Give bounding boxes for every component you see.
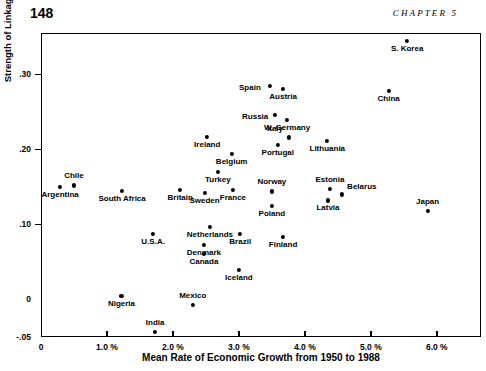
data-point (119, 294, 123, 298)
x-axis-tick-mark (106, 331, 107, 337)
y-axis-tick-mark (35, 149, 41, 150)
x-axis-tick-mark (172, 331, 173, 337)
data-point (340, 192, 344, 196)
data-point (230, 152, 234, 156)
data-point-label: South Africa (98, 195, 145, 203)
data-point-label: Iceland (225, 274, 253, 282)
x-axis-tick-mark (304, 331, 305, 337)
data-point-label: Netherlands (187, 231, 233, 239)
data-point (387, 89, 391, 93)
data-point-label: Canada (189, 258, 218, 266)
data-point-label: Spain (239, 84, 261, 92)
data-point-label: Brazil (229, 238, 251, 246)
x-axis-tick-mark (370, 331, 371, 337)
data-point-label: Belgium (216, 158, 248, 166)
data-point-label: Argentina (41, 191, 78, 199)
data-point-label: Nigeria (108, 300, 135, 308)
data-point (153, 330, 157, 334)
data-point (205, 134, 209, 138)
data-point-label: U.S.A. (141, 238, 165, 246)
y-axis-tick-mark (35, 224, 41, 225)
data-point (203, 191, 207, 195)
data-point-label: S. Korea (391, 45, 423, 53)
data-point (202, 243, 206, 247)
data-point-label: Norway (257, 178, 286, 186)
x-axis-tick-label: 0 (19, 343, 63, 352)
data-point-label: Ireland (194, 141, 220, 149)
x-axis-tick-label: 6.0 % (415, 343, 459, 352)
data-point (231, 188, 235, 192)
data-point-label: Belarus (347, 183, 376, 191)
data-point-label: Lithuania (310, 145, 346, 153)
x-axis-tick-label: 3.0 % (217, 343, 261, 352)
data-point-label: Portugal (262, 149, 294, 157)
data-point (178, 188, 182, 192)
data-point-label: Turkey (205, 176, 231, 184)
data-point (191, 303, 195, 307)
data-point (405, 38, 409, 42)
x-axis-tick-mark (238, 331, 239, 337)
data-point-label: China (378, 95, 400, 103)
data-point (325, 139, 329, 143)
data-point-label: Latvia (316, 204, 339, 212)
data-point (237, 268, 241, 272)
data-point (270, 204, 274, 208)
y-axis-tick-mark (35, 74, 41, 75)
data-point-label: Austria (269, 93, 297, 101)
data-point (287, 135, 291, 139)
data-point-label: Estonia (315, 176, 344, 184)
data-point (238, 232, 242, 236)
x-axis-tick-mark (436, 331, 437, 337)
data-point-label: Sweden (189, 197, 219, 205)
data-point-label: India (146, 319, 165, 327)
data-point (270, 189, 274, 193)
data-point-label: Russia (242, 113, 268, 121)
data-point-label: Finland (269, 241, 297, 249)
data-point (72, 183, 76, 187)
data-point (281, 235, 285, 239)
data-point (326, 198, 330, 202)
data-point (273, 113, 277, 117)
data-point (328, 187, 332, 191)
x-axis-tick-label: 1.0 % (85, 343, 129, 352)
data-point (276, 143, 280, 147)
y-axis-title-wrapper: Strength of Linkage between Age and Valu… (6, 33, 20, 337)
data-point (281, 87, 285, 91)
chapter-label: CHAPTER 5 (393, 8, 458, 18)
data-point-label: Mexico (179, 292, 206, 300)
data-point (151, 232, 155, 236)
x-axis-tick-label: 5.0 % (349, 343, 393, 352)
y-axis-tick-label: .30 (0, 70, 31, 79)
data-point (58, 185, 62, 189)
data-point (425, 209, 429, 213)
data-point-label: Japan (416, 198, 439, 206)
data-point (208, 225, 212, 229)
data-point-label: Poland (259, 210, 286, 218)
y-axis-tick-label: .20 (0, 145, 31, 154)
data-point (285, 118, 289, 122)
x-axis-tick-label: 4.0 % (283, 343, 327, 352)
y-axis-tick-label: .10 (0, 220, 31, 229)
y-axis-tick-label: -.05 (0, 333, 31, 342)
x-axis-tick-label: 2.0 % (151, 343, 195, 352)
scatter-plot-area: .30.20.100-.0501.0 %2.0 %3.0 %4.0 %5.0 %… (41, 33, 481, 337)
page-number: 148 (30, 5, 53, 21)
data-point-label: Italy (267, 125, 283, 133)
x-axis-title: Mean Rate of Economic Growth from 1950 t… (41, 352, 481, 363)
data-point (216, 170, 220, 174)
data-point (268, 83, 272, 87)
data-point (120, 189, 124, 193)
data-point-label: France (220, 194, 246, 202)
y-axis-tick-label: 0 (0, 295, 31, 304)
page-canvas: 148 CHAPTER 5 Strength of Linkage betwee… (0, 0, 486, 371)
data-point-label: Chile (64, 172, 84, 180)
